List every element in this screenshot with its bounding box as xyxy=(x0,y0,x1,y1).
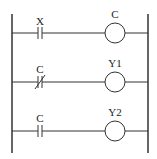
coil-label: C xyxy=(111,8,118,20)
coil-icon xyxy=(105,23,125,43)
rung-2: C Y1 xyxy=(12,57,148,92)
rung-3: C Y2 xyxy=(12,106,148,141)
coil-label: Y1 xyxy=(108,57,121,69)
coil-label: Y2 xyxy=(108,106,121,118)
coil-icon xyxy=(105,72,125,92)
normally-open-contact-icon xyxy=(38,27,42,39)
normally-open-contact-icon xyxy=(38,125,42,137)
contact-label: C xyxy=(36,63,43,75)
contact-label: X xyxy=(36,15,44,27)
coil-icon xyxy=(105,121,125,141)
contact-label: C xyxy=(36,112,43,124)
ladder-diagram: X C C Y1 C Y2 xyxy=(0,0,157,159)
rung-1: X C xyxy=(12,8,148,43)
